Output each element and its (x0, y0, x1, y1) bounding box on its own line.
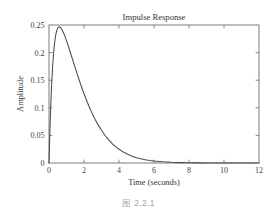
x-tick-label: 4 (117, 166, 121, 175)
y-tick-label: 0.25 (31, 21, 45, 30)
y-tick-label: 0.1 (35, 104, 45, 113)
y-tick-label: 0.2 (35, 49, 45, 58)
y-axis-label: Amplitude (16, 76, 25, 112)
x-axis-label: Time (seconds) (128, 178, 180, 187)
figure-container: 02468101200.050.10.150.20.25Impulse Resp… (0, 0, 277, 219)
y-tick-label: 0 (41, 159, 45, 168)
impulse-response-chart: 02468101200.050.10.150.20.25Impulse Resp… (0, 0, 277, 219)
x-tick-label: 6 (152, 166, 156, 175)
impulse-response-curve (49, 27, 259, 163)
x-tick-label: 10 (220, 166, 228, 175)
x-tick-label: 0 (47, 166, 51, 175)
plot-box (49, 25, 259, 163)
y-tick-label: 0.15 (31, 76, 45, 85)
chart-title: Impulse Response (123, 12, 186, 22)
x-tick-label: 2 (82, 166, 86, 175)
x-tick-label: 8 (187, 166, 191, 175)
figure-caption: 图 2.2.1 (0, 196, 277, 208)
y-tick-label: 0.05 (31, 131, 45, 140)
x-tick-label: 12 (255, 166, 263, 175)
